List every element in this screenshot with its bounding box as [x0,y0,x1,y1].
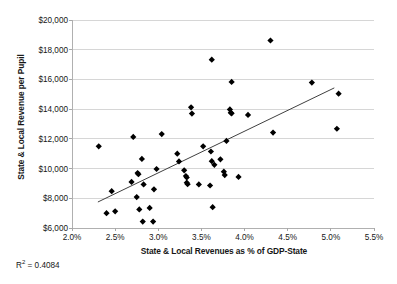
data-point [200,143,206,149]
tick-marks [69,20,374,231]
data-point [235,174,241,180]
data-point [136,206,142,212]
data-point [309,79,315,85]
data-point [153,166,159,172]
data-point [150,219,156,225]
data-point [207,182,213,188]
data-point [208,148,214,154]
data-point [134,194,140,200]
data-point [128,179,134,185]
data-point [336,91,342,97]
data-point [140,219,146,225]
plot-area [0,0,397,284]
data-point [159,131,165,137]
data-point [270,130,276,136]
data-point [139,156,145,162]
data-point [196,181,202,187]
axis-lines [72,20,374,228]
trendline-segment [98,88,334,202]
data-point [103,210,109,216]
data-points [96,37,342,224]
data-point [174,151,180,157]
r-squared-value: = 0.4084 [25,261,59,270]
data-point [189,111,195,117]
scatter-chart: State & Local Revenue per Pupil $6,000$8… [0,0,397,284]
data-point [245,112,251,118]
data-point [96,143,102,149]
data-point [210,204,216,210]
r-squared-annotation: R2 = 0.4084 [16,259,60,270]
data-point [334,126,340,132]
data-point [109,188,115,194]
data-point [112,208,118,214]
data-point [217,156,223,162]
data-point [151,186,157,192]
data-point [267,37,273,43]
data-point [141,181,147,187]
data-point [209,57,215,63]
data-point [147,205,153,211]
x-axis-title: State & Local Revenues as % of GDP-State [72,246,376,256]
trendline [98,88,334,202]
